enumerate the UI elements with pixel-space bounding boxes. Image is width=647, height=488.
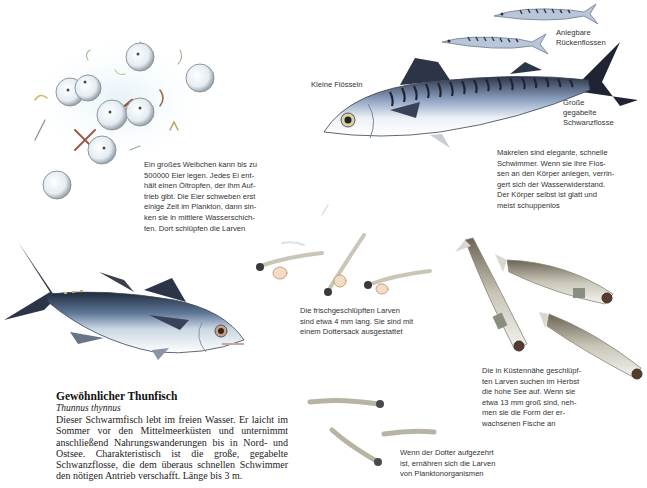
caption-line: Makrelen sind elegante, schnelle: [497, 148, 647, 159]
juvenile-fish-caption: Die in Küstennähe geschlüpf- ten Larven …: [482, 366, 602, 430]
hatched-larvae-caption: Die frischgeschlüpften Larven sind etwa …: [300, 306, 440, 338]
small-mackerel-top: [490, 2, 605, 28]
label-tail-fin: Große gegabelte Schwanzflosse: [563, 98, 614, 128]
caption-line: etwa 13 mm groß sind, neh-: [482, 398, 602, 409]
caption-line: einem Dottersack ausgestattet: [300, 327, 440, 338]
caption-line: men sie die Form der er-: [482, 408, 602, 419]
tuna-description: Dieser Schwarmfisch lebt im freien Wasse…: [56, 414, 288, 482]
caption-line: die hohe See auf. Wenn sie: [482, 387, 602, 398]
tuna-description-block: Gewöhnlicher Thunfisch Thunnus thynnus D…: [56, 390, 288, 482]
caption-line: 500000 Eier legen. Jedes Ei ent-: [144, 171, 294, 182]
label-line: Anlegbare: [556, 28, 606, 38]
tuna-illustration: [4, 240, 248, 364]
label-small-finlets: Kleine Flösseln: [311, 80, 363, 90]
tuna-title: Gewöhnlicher Thunfisch: [56, 390, 288, 402]
caption-line: ist, ernähren sich die Larven: [400, 459, 520, 470]
caption-line: sind etwa 4 mm lang. Sie sind mit: [300, 317, 440, 328]
caption-line: Ein großes Weibchen kann bis zu: [144, 160, 294, 171]
mackerel-caption: Makrelen sind elegante, schnelle Schwimm…: [497, 148, 647, 212]
label-line: Große: [563, 98, 614, 108]
caption-line: Die frischgeschlüpften Larven: [300, 306, 440, 317]
caption-line: gert sich der Wasserwiderstand.: [497, 180, 647, 191]
hatched-larvae-illustration: [244, 195, 464, 295]
caption-line: ten Larven suchen im Herbst: [482, 377, 602, 388]
caption-line: Der Körper selbst ist glatt und: [497, 190, 647, 201]
feeding-larvae-caption: Wenn der Dotter aufgezehrt ist, ernähren…: [400, 448, 520, 480]
caption-line: meist schuppenlos: [497, 201, 647, 212]
caption-line: Schwimmer. Wenn sie ihre Flos-: [497, 159, 647, 170]
caption-line: hält einen Öltropfen, der ihm Auf-: [144, 181, 294, 192]
label-line: gegabelte: [563, 108, 614, 118]
caption-line: von Planktonorganismen: [400, 469, 520, 480]
caption-line: wachsenen Fische an: [482, 419, 602, 430]
label-line: Schwanzflosse: [563, 118, 614, 128]
mackerel-illustration: [320, 40, 642, 150]
caption-line: Wenn der Dotter aufgezehrt: [400, 448, 520, 459]
tuna-scientific-name: Thunnus thynnus: [56, 403, 288, 413]
caption-line: Die in Küstennähe geschlüpf-: [482, 366, 602, 377]
caption-line: sen an den Körper anlegen, verrin-: [497, 169, 647, 180]
